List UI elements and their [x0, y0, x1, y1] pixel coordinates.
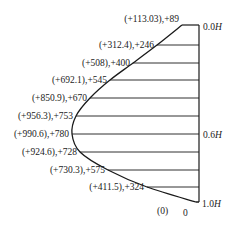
row-label: (+924.6),+728 [22, 147, 77, 158]
row-label: (+850.9),+670 [32, 93, 87, 104]
row-label: (+692.1),+545 [52, 75, 107, 86]
axis-label-top: 0.0H [203, 22, 223, 32]
row-label: (+312.4),+246 [99, 40, 154, 51]
pressure-diagram: (+113.03),+89(+312.4),+246(+508),+400(+6… [0, 0, 238, 228]
axis-label-bottom: 1.0H [202, 199, 222, 209]
bottom-paren-zero: (0) [157, 206, 168, 217]
row-labels: (+113.03),+89(+312.4),+246(+508),+400(+6… [14, 14, 179, 193]
row-label: (+411.5),+324 [89, 182, 144, 193]
bottom-zero: 0 [183, 208, 188, 218]
row-label: (+730.3),+575 [50, 165, 105, 176]
axis-label-mid: 0.6H [203, 130, 223, 140]
row-label: (+990.6),+780 [14, 129, 69, 140]
row-label: (+956.3),+753 [18, 111, 73, 122]
row-label: (+113.03),+89 [124, 14, 179, 25]
distribution-curve [72, 25, 199, 202]
row-label: (+508),+400 [82, 58, 130, 69]
